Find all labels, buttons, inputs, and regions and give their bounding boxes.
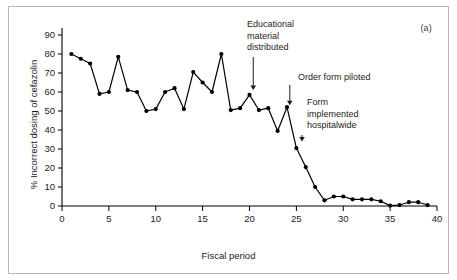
data-point (88, 61, 92, 65)
y-tick-label: 10 (44, 181, 55, 192)
data-point (285, 105, 289, 109)
x-tick-label: 0 (59, 213, 64, 224)
data-point (247, 93, 251, 97)
arrow-form-implemented-head (299, 137, 305, 142)
x-axis-title: Fiscal period (9, 250, 448, 261)
y-tick-label: 20 (44, 162, 55, 173)
y-tick-label: 0 (50, 200, 55, 211)
data-point (304, 165, 308, 169)
y-tick-label: 90 (44, 29, 55, 40)
line-chart: 01020304050607080900510152025303540 (9, 7, 448, 273)
data-point (351, 197, 355, 201)
data-point (294, 146, 298, 150)
data-point (182, 107, 186, 111)
x-tick-label: 25 (291, 213, 302, 224)
x-tick-label: 20 (244, 213, 255, 224)
figure-frame: (a) 01020304050607080900510152025303540 … (8, 6, 449, 274)
data-point (266, 106, 270, 110)
data-point (407, 200, 411, 204)
data-point (69, 52, 73, 56)
data-point (257, 108, 261, 112)
data-point (97, 92, 101, 96)
data-point (154, 107, 158, 111)
data-point (388, 204, 392, 208)
data-point (163, 90, 167, 94)
y-tick-label: 30 (44, 143, 55, 154)
data-point (322, 198, 326, 202)
annotation-form-implemented: Form implemented hospitalwide (307, 97, 359, 132)
y-tick-label: 80 (44, 48, 55, 59)
data-point (332, 194, 336, 198)
y-tick-label: 40 (44, 124, 55, 135)
data-point (426, 203, 430, 207)
x-tick-label: 5 (106, 213, 111, 224)
data-point (107, 90, 111, 94)
data-point (191, 70, 195, 74)
data-point (369, 197, 373, 201)
y-tick-label: 50 (44, 105, 55, 116)
data-point (126, 88, 130, 92)
data-point (276, 129, 280, 133)
x-tick-label: 40 (432, 213, 443, 224)
data-point (238, 106, 242, 110)
data-point (210, 90, 214, 94)
data-point (360, 197, 364, 201)
data-point (135, 90, 139, 94)
data-series-line (71, 54, 427, 206)
data-point (172, 86, 176, 90)
data-point (116, 55, 120, 59)
data-point (229, 108, 233, 112)
annotation-order-form-piloted: Order form piloted (298, 72, 371, 84)
x-tick-label: 35 (385, 213, 396, 224)
data-point (341, 194, 345, 198)
data-point (379, 199, 383, 203)
y-tick-label: 60 (44, 86, 55, 97)
data-point (416, 200, 420, 204)
x-tick-label: 10 (150, 213, 161, 224)
x-tick-label: 30 (338, 213, 349, 224)
data-point (397, 203, 401, 207)
data-point (79, 57, 83, 61)
x-tick-label: 15 (197, 213, 208, 224)
data-point (313, 185, 317, 189)
y-tick-label: 70 (44, 67, 55, 78)
figure-panel: (a) 01020304050607080900510152025303540 … (0, 0, 457, 280)
data-point (144, 109, 148, 113)
arrow-order-form-piloted-head (287, 101, 293, 106)
arrow-educational-material-head (250, 86, 256, 91)
y-axis-title: % Incorrect dosing of cefazolin (28, 25, 39, 225)
data-point (219, 52, 223, 56)
annotation-educational-material: Educational material distributed (247, 19, 294, 54)
data-point (201, 80, 205, 84)
